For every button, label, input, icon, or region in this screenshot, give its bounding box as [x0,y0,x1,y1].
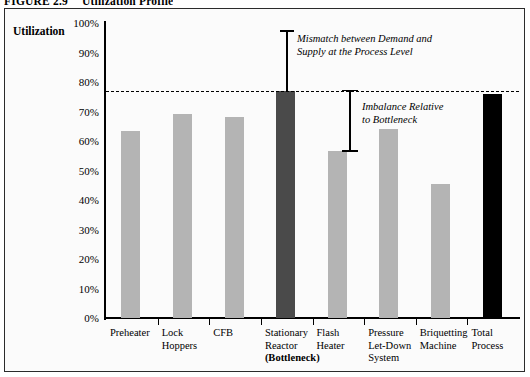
y-axis-tick-100pct: 100% [57,18,99,29]
bar-briquetting-machine[interactable] [431,184,450,318]
y-axis-tick-labels: 100%90%80%70%60%50%40%30%20%10%0% [53,9,99,373]
figure-caption-title: Utilization Profile [82,0,173,7]
bar-total-process[interactable] [483,94,502,318]
y-axis-tick-10pct: 10% [57,283,99,294]
x-axis-tick-7 [467,319,468,325]
mismatch-annotation-bracket [286,30,288,91]
x-axis-label-briquetting-machine: BriquettingMachine [420,327,470,352]
x-axis-label-pressure-let-down-system: PressureLet-DownSystem [368,327,418,365]
x-axis-tick-6 [416,319,417,325]
x-axis-label-preheater: Preheater [110,327,160,340]
bar-lock-hoppers[interactable] [173,114,192,318]
x-axis-label-line: Stationary [265,327,315,340]
chart-panel: Utilization 100%90%80%70%60%50%40%30%20%… [4,8,525,372]
figure-caption-number: FIGURE 2.9 [4,0,68,7]
bar-pressure-let-down-system[interactable] [379,129,398,318]
y-axis-tick-90pct: 90% [57,47,99,58]
x-axis-label-line: Machine [420,340,470,353]
bar-flash-heater[interactable] [328,151,347,318]
x-axis-label-line: Total [471,327,521,340]
x-axis-label-line: Reactor [265,340,315,353]
x-axis-label-line: Heater [317,340,367,353]
imbalance-annotation-bracket [349,91,351,151]
y-axis-tick-60pct: 60% [57,136,99,147]
x-axis-label-stationary-reactor: StationaryReactor(Bottleneck) [265,327,315,365]
imbalance-annotation-line-2: to Bottleneck [362,113,522,126]
x-axis-label-line: Let-Down [368,340,418,353]
mismatch-annotation-line-1: Mismatch between Demand and [297,32,497,45]
x-axis-label-line: Preheater [110,327,160,340]
mismatch-annotation-text: Mismatch between Demand and Supply at th… [297,32,497,58]
plot-area [105,23,519,318]
x-axis-tick-4 [313,319,314,325]
imbalance-annotation-line-1: Imbalance Relative [362,100,522,113]
x-axis-label-line: Process [471,340,521,353]
x-axis-tick-3 [261,319,262,325]
x-axis-label-line: Hoppers [162,340,212,353]
figure-root: FIGURE 2.9Utilization Profile Utilizatio… [0,0,530,377]
x-axis-tick-5 [364,319,365,325]
y-axis-tick-50pct: 50% [57,165,99,176]
x-axis-label-line: Lock [162,327,212,340]
x-axis-label-line: Pressure [368,327,418,340]
bar-preheater[interactable] [121,131,140,318]
x-axis-label-flash-heater: FlashHeater [317,327,367,352]
x-axis-tick-1 [158,319,159,325]
mismatch-annotation-line-2: Supply at the Process Level [297,45,497,58]
y-axis-tick-30pct: 30% [57,224,99,235]
imbalance-annotation-text: Imbalance Relative to Bottleneck [362,100,522,126]
x-axis-label-line: CFB [213,327,263,340]
x-axis-label-line: Flash [317,327,367,340]
y-axis-tick-80pct: 80% [57,77,99,88]
y-axis-tick-0pct: 0% [57,313,99,324]
x-axis-label-line: Briquetting [420,327,470,340]
bar-cfb[interactable] [225,117,244,318]
x-axis-tick-2 [209,319,210,325]
imbalance-annotation-cap-bottom [342,150,358,152]
x-axis-label-total-process: TotalProcess [471,327,521,352]
x-axis-label-line: (Bottleneck) [265,352,315,365]
y-axis-tick-20pct: 20% [57,254,99,265]
y-axis-tick-70pct: 70% [57,106,99,117]
x-axis-label-line: System [368,352,418,365]
y-axis-tick-40pct: 40% [57,195,99,206]
bottleneck-reference-line [106,91,519,92]
x-axis-label-cfb: CFB [213,327,263,340]
x-axis-label-lock-hoppers: LockHoppers [162,327,212,352]
bar-stationary-reactor[interactable] [276,91,295,318]
